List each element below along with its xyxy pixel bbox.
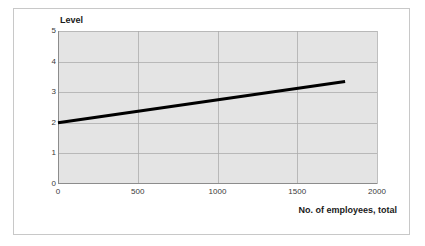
x-tick-label: 1500 — [277, 188, 317, 196]
y-tick-label: 4 — [30, 58, 56, 66]
y-tick-label: 0 — [30, 180, 56, 188]
y-tick-label: 3 — [30, 88, 56, 96]
x-tick-label: 1000 — [198, 188, 238, 196]
data-series-layer — [58, 31, 377, 184]
x-tick-label: 2000 — [357, 188, 397, 196]
gridline-vertical — [377, 31, 378, 184]
y-tick-label: 2 — [30, 119, 56, 127]
chart-frame: Level 012345 0500100015002000 No. of emp… — [13, 8, 410, 235]
y-tick-label: 1 — [30, 149, 56, 157]
x-tick-label: 0 — [38, 188, 78, 196]
plot-area — [58, 31, 377, 184]
x-axis-tick-labels: 0500100015002000 — [58, 188, 377, 200]
y-tick-label: 5 — [30, 27, 56, 35]
data-series-line — [58, 81, 345, 122]
x-tick-label: 500 — [118, 188, 158, 196]
y-axis-tick-labels: 012345 — [26, 31, 56, 184]
x-axis-title: No. of employees, total — [298, 205, 397, 215]
y-axis-title: Level — [60, 15, 83, 25]
